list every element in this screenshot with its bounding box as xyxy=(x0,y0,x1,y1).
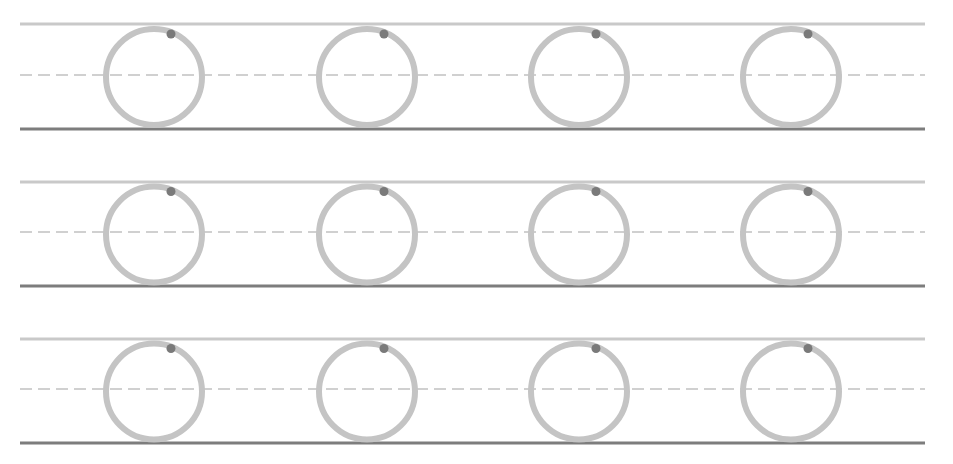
letter-o-outline xyxy=(531,344,627,440)
trace-letter-o xyxy=(531,29,627,125)
start-dot-icon xyxy=(804,187,813,196)
start-dot-icon xyxy=(592,187,601,196)
trace-letter-o xyxy=(319,29,415,125)
start-dot-icon xyxy=(804,30,813,39)
start-dot-icon xyxy=(380,30,389,39)
letter-o-outline xyxy=(106,187,202,283)
practice-row xyxy=(20,182,925,286)
letter-o-outline xyxy=(531,187,627,283)
start-dot-icon xyxy=(167,344,176,353)
trace-letter-o xyxy=(319,344,415,440)
letter-o-outline xyxy=(106,29,202,125)
start-dot-icon xyxy=(592,30,601,39)
letter-o-outline xyxy=(319,344,415,440)
start-dot-icon xyxy=(167,30,176,39)
start-dot-icon xyxy=(167,187,176,196)
letter-o-outline xyxy=(106,344,202,440)
trace-letter-o xyxy=(106,344,202,440)
letter-o-outline xyxy=(743,29,839,125)
trace-letter-o xyxy=(106,29,202,125)
start-dot-icon xyxy=(804,344,813,353)
tracing-worksheet xyxy=(0,0,953,464)
letter-o-outline xyxy=(319,187,415,283)
letter-o-outline xyxy=(531,29,627,125)
letter-o-outline xyxy=(319,29,415,125)
trace-letter-o xyxy=(743,187,839,283)
trace-letter-o xyxy=(106,187,202,283)
practice-row xyxy=(20,339,925,443)
trace-letter-o xyxy=(319,187,415,283)
trace-letter-o xyxy=(743,344,839,440)
start-dot-icon xyxy=(380,187,389,196)
letter-o-outline xyxy=(743,344,839,440)
start-dot-icon xyxy=(592,344,601,353)
trace-letter-o xyxy=(743,29,839,125)
letter-o-outline xyxy=(743,187,839,283)
start-dot-icon xyxy=(380,344,389,353)
trace-letter-o xyxy=(531,187,627,283)
practice-row xyxy=(20,24,925,129)
trace-letter-o xyxy=(531,344,627,440)
